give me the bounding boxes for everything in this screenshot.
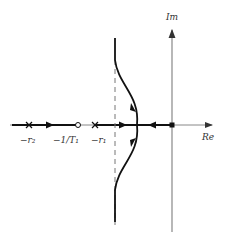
label-zero: −1/T₁ [53, 135, 79, 145]
arrow-right-icon [119, 122, 127, 129]
arrow-left-icon [148, 122, 156, 129]
label-r2: −r₂ [20, 135, 36, 145]
real-axis-label: Re [201, 132, 214, 142]
imaginary-axis-label: Im [165, 12, 178, 22]
locus-branch-upper [115, 38, 137, 125]
root-locus-diagram: Im Re −r₂ −1/T₁ −r₁ [0, 0, 231, 244]
label-r1: −r₁ [91, 135, 106, 145]
pole-origin-marker [170, 123, 175, 128]
arrow-right-icon [46, 122, 54, 129]
zero-marker [76, 123, 81, 128]
